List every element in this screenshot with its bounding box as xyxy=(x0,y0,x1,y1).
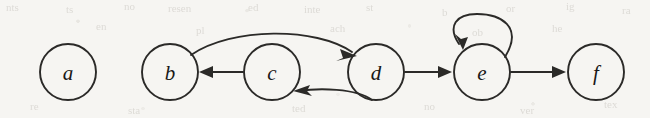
node-e-label: e xyxy=(477,61,486,85)
edge-b-to-d xyxy=(191,34,357,61)
node-d[interactable]: d xyxy=(348,44,404,100)
node-e[interactable]: e xyxy=(454,44,510,100)
edge-e-to-e-path xyxy=(454,14,512,57)
edge-d-to-c xyxy=(293,85,372,100)
graph-figure: a b c d e f ntstsn xyxy=(0,0,650,118)
node-c[interactable]: c xyxy=(244,44,300,100)
edge-e-to-f xyxy=(511,66,566,78)
node-c-label: c xyxy=(267,61,277,85)
node-a-label: a xyxy=(63,61,74,85)
node-a[interactable]: a xyxy=(40,44,96,100)
graph-canvas: a b c d e f xyxy=(0,0,650,118)
edge-c-to-b xyxy=(199,66,243,78)
node-b[interactable]: b xyxy=(142,44,198,100)
edge-c-to-b-arrowhead xyxy=(199,66,213,78)
edge-d-to-e-arrowhead xyxy=(438,66,452,78)
edge-e-to-e-selfloop xyxy=(454,14,512,57)
edge-d-to-e xyxy=(405,66,452,78)
node-f-label: f xyxy=(593,61,602,85)
node-d-label: d xyxy=(371,61,382,85)
node-b-label: b xyxy=(165,61,176,85)
node-f[interactable]: f xyxy=(568,44,624,100)
edge-e-to-f-arrowhead xyxy=(552,66,566,78)
